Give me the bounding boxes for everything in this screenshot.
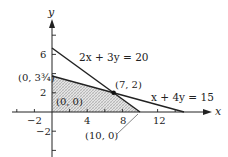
y-tick-label-neg2: −2 xyxy=(36,126,51,137)
x-tick-label-neg2: −2 xyxy=(27,115,42,126)
x-tick-label-12: 12 xyxy=(153,115,166,126)
x-axis-label: x xyxy=(215,105,222,118)
point-label-0-0: (0, 0) xyxy=(56,96,83,107)
y-tick-label-6: 6 xyxy=(40,49,46,60)
x-tick-label-8: 8 xyxy=(120,115,126,126)
line-label-2x-3y-20: 2x + 3y = 20 xyxy=(79,51,149,63)
linear-programming-graph: x y 6 2 −2 −2 4 8 12 2x + 3y = 20 x + 4y… xyxy=(0,0,228,157)
line-label-x-4y-15: x + 4y = 15 xyxy=(151,91,214,103)
point-label-7-2: (7, 2) xyxy=(115,79,142,90)
y-axis-arrow-icon xyxy=(49,19,55,28)
x-tick-label-4: 4 xyxy=(84,115,90,126)
y-tick-label-2: 2 xyxy=(40,87,46,98)
x-axis-arrow-icon xyxy=(203,109,212,115)
point-label-10-0: (10, 0) xyxy=(85,130,118,141)
point-label-0-3-75: (0, 3¾) xyxy=(18,72,55,83)
vertex-dot-7-2 xyxy=(111,91,116,96)
y-axis-label: y xyxy=(47,6,55,19)
